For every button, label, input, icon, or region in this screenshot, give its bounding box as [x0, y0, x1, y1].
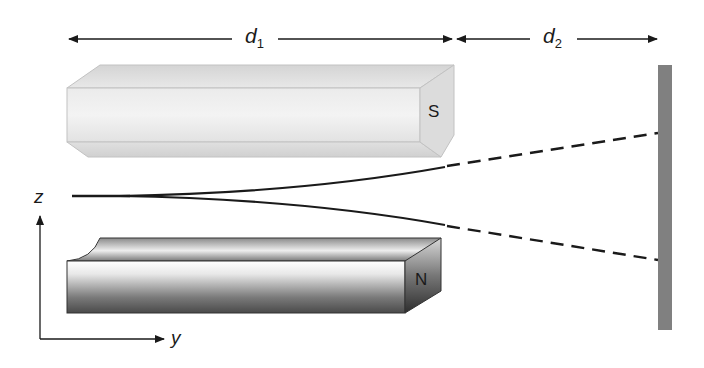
n-magnet — [67, 238, 441, 313]
label-d2: d2 — [543, 24, 562, 51]
detector-screen — [658, 65, 672, 330]
label-z-axis: z — [34, 186, 44, 208]
diagram-canvas — [0, 0, 704, 368]
s-magnet — [67, 65, 454, 157]
label-s-pole: S — [428, 102, 439, 122]
label-y-axis: y — [171, 327, 181, 349]
label-d1: d1 — [245, 24, 264, 51]
label-n-pole: N — [415, 270, 427, 290]
